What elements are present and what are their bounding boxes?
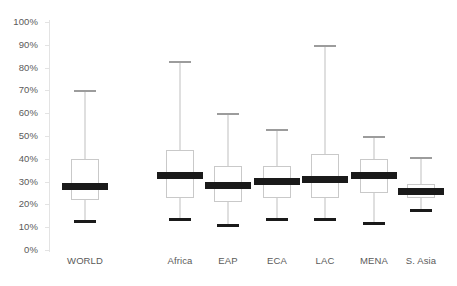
whisker-lower-line [325, 198, 326, 219]
whisker-cap-lower [410, 209, 432, 212]
median-bar [62, 183, 108, 190]
whisker-lower-line [180, 198, 181, 219]
x-tick-label-lac: LAC [316, 256, 335, 266]
y-tick-mark [45, 90, 49, 91]
x-tick-label-africa: Africa [168, 256, 193, 266]
y-tick-mark [45, 113, 49, 114]
y-tick-label-90: 90% [19, 40, 38, 50]
whisker-cap-lower [314, 218, 336, 221]
whisker-cap-upper [74, 90, 96, 92]
whisker-cap-upper [363, 136, 385, 138]
y-tick-mark [45, 250, 49, 251]
x-tick-label-world: WORLD [67, 256, 103, 266]
whisker-lower-line [228, 202, 229, 224]
y-tick-label-30: 30% [19, 177, 38, 187]
whisker-cap-upper [266, 129, 288, 131]
median-bar [398, 188, 444, 195]
y-tick-label-70: 70% [19, 86, 38, 96]
x-tick-label-mena: MENA [360, 256, 388, 266]
median-bar [157, 172, 203, 179]
y-tick-label-80: 80% [19, 63, 38, 73]
whisker-cap-upper [314, 45, 336, 47]
whisker-cap-upper [169, 61, 191, 63]
y-tick-mark [45, 45, 49, 46]
y-tick-mark [45, 136, 49, 137]
median-bar [254, 178, 300, 185]
box-series-world [62, 18, 108, 254]
y-tick-mark [45, 204, 49, 205]
x-tick-label-s--asia: S. Asia [406, 256, 436, 266]
whisker-upper-line [421, 157, 422, 184]
y-tick-label-60: 60% [19, 108, 38, 118]
whisker-cap-upper [217, 113, 239, 115]
median-bar [302, 176, 348, 183]
x-tick-label-eap: EAP [218, 256, 237, 266]
box-series-eap [205, 18, 251, 254]
box-series-africa [157, 18, 203, 254]
box-plot-chart: 0%10%20%30%40%50%60%70%80%90%100% WORLDA… [0, 0, 457, 286]
whisker-lower-line [421, 198, 422, 209]
y-tick-mark [45, 22, 49, 23]
median-bar [205, 182, 251, 189]
y-tick-mark [45, 159, 49, 160]
box-series-lac [302, 18, 348, 254]
x-tick-label-eca: ECA [267, 256, 287, 266]
whisker-lower-line [277, 198, 278, 219]
box-series-mena [351, 18, 397, 254]
whisker-upper-line [374, 136, 375, 159]
box-iqr-rect [71, 159, 99, 200]
whisker-cap-lower [169, 218, 191, 221]
whisker-upper-line [228, 113, 229, 165]
plot-area [50, 18, 450, 254]
y-tick-mark [45, 68, 49, 69]
whisker-upper-line [325, 45, 326, 154]
whisker-cap-upper [410, 157, 432, 159]
y-tick-label-10: 10% [19, 222, 38, 232]
x-axis: WORLDAfricaEAPECALACMENAS. Asia [50, 256, 450, 280]
whisker-upper-line [277, 129, 278, 165]
whisker-upper-line [180, 61, 181, 150]
box-series-s--asia [398, 18, 444, 254]
whisker-cap-lower [217, 224, 239, 227]
whisker-lower-line [374, 193, 375, 222]
whisker-cap-lower [363, 222, 385, 225]
whisker-lower-line [85, 200, 86, 221]
y-tick-label-50: 50% [19, 131, 38, 141]
y-tick-label-0: 0% [24, 245, 38, 255]
y-tick-mark [45, 182, 49, 183]
y-tick-label-40: 40% [19, 154, 38, 164]
whisker-cap-lower [74, 220, 96, 223]
y-tick-mark [45, 227, 49, 228]
whisker-upper-line [85, 90, 86, 158]
y-tick-label-20: 20% [19, 200, 38, 210]
y-axis: 0%10%20%30%40%50%60%70%80%90%100% [0, 0, 46, 286]
y-tick-label-100: 100% [13, 17, 38, 27]
whisker-cap-lower [266, 218, 288, 221]
median-bar [351, 172, 397, 179]
box-series-eca [254, 18, 300, 254]
